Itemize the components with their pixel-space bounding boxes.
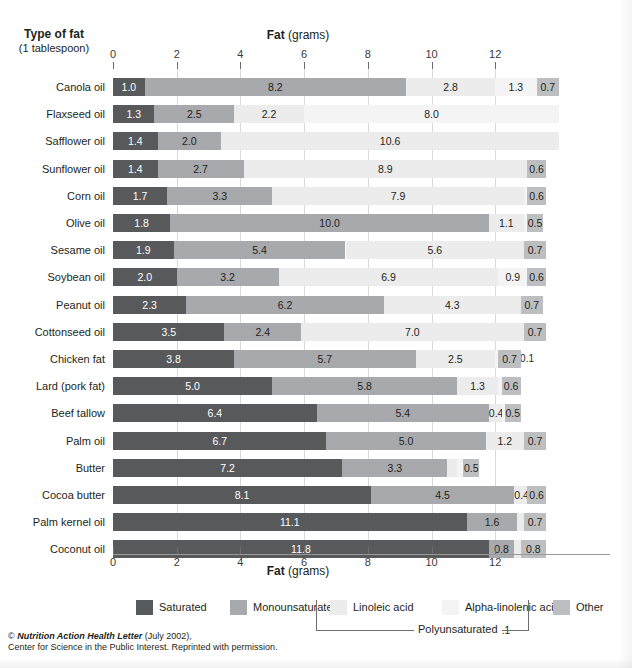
x-tick-mark-bottom bbox=[304, 547, 305, 554]
bar-value-label: 2.7 bbox=[158, 160, 244, 178]
bar-row: 3.85.72.50.70.1 bbox=[113, 350, 574, 368]
bar-value-label: 5.0 bbox=[326, 432, 485, 450]
bar-segment-other: 0.7 bbox=[521, 296, 543, 314]
x-tick-label-top: 4 bbox=[225, 48, 255, 60]
row-label: Chicken fat bbox=[0, 350, 105, 368]
bar-row: 8.14.50.40.6 bbox=[113, 486, 574, 504]
bar-segment-linoleic: 2.2 bbox=[234, 105, 304, 123]
bar-value-label: 6.4 bbox=[113, 404, 317, 422]
bar-value-label: 5.8 bbox=[272, 377, 457, 395]
x-axis-title-bottom-bold: Fat bbox=[267, 564, 285, 578]
bar-row: 2.36.24.30.7 bbox=[113, 296, 574, 314]
publication-name: Nutrition Action Health Letter bbox=[17, 631, 142, 641]
x-tick-label-bottom: 4 bbox=[225, 556, 255, 568]
copyright-symbol: © bbox=[8, 631, 17, 641]
row-label: Lard (pork fat) bbox=[0, 377, 105, 395]
bar-segment-saturated: 3.5 bbox=[113, 323, 224, 341]
bar-value-label: 1.3 bbox=[457, 377, 498, 395]
x-tick-mark-top bbox=[432, 62, 433, 69]
source-credit-line1: © Nutrition Action Health Letter (July 2… bbox=[8, 631, 278, 642]
row-label: Cottonseed oil bbox=[0, 323, 105, 341]
bar-value-label: 0.5 bbox=[463, 459, 479, 477]
bar-segment-saturated: 6.7 bbox=[113, 432, 326, 450]
plot-area: 1.08.22.81.30.71.32.52.28.01.42.010.61.4… bbox=[113, 62, 574, 554]
bar-segment-monounsaturated: 10.0 bbox=[170, 214, 489, 232]
bar-row: 1.32.52.28.0 bbox=[113, 105, 574, 123]
publication-date: (July 2002), bbox=[142, 631, 192, 641]
bar-value-label: 5.4 bbox=[174, 241, 346, 259]
bar-segment-linoleic: 0.4 bbox=[514, 486, 527, 504]
bar-value-label: 2.5 bbox=[154, 105, 234, 123]
bar-value-label: 2.3 bbox=[113, 296, 186, 314]
bar-segment-alpha-linolenic: 8.0 bbox=[304, 105, 559, 123]
bar-value-label: 4.3 bbox=[384, 296, 521, 314]
bar-segment-monounsaturated: 3.3 bbox=[342, 459, 447, 477]
x-tick-mark-top bbox=[113, 62, 114, 69]
bar-value-label: 0.7 bbox=[524, 241, 546, 259]
bar-value-label: 7.2 bbox=[113, 459, 342, 477]
bar-value-label: 1.8 bbox=[113, 214, 170, 232]
x-axis-title-top-bold: Fat bbox=[267, 28, 285, 42]
page-edge-shadow bbox=[618, 0, 632, 668]
bar-row: 1.08.22.81.30.7 bbox=[113, 78, 574, 96]
bar-segment-linoleic: 5.6 bbox=[346, 241, 524, 259]
bar-segment-linoleic: 0.4 bbox=[489, 404, 502, 422]
bar-row: 1.73.37.90.60.1 bbox=[113, 187, 574, 205]
bar-segment-saturated: 1.4 bbox=[113, 132, 158, 150]
page-bottom-shadow bbox=[0, 658, 632, 668]
bar-segment-monounsaturated: 5.4 bbox=[174, 241, 346, 259]
bar-segment-saturated: 11.1 bbox=[113, 513, 467, 531]
row-label: Canola oil bbox=[0, 78, 105, 96]
x-tick-mark-bottom bbox=[368, 547, 369, 554]
bar-value-label: 8.9 bbox=[244, 160, 527, 178]
bar-segment-other: 0.6 bbox=[502, 377, 521, 395]
bar-value-label: 0.7 bbox=[537, 78, 559, 96]
x-tick-label-top: 2 bbox=[162, 48, 192, 60]
bar-segment-other: 0.7 bbox=[537, 78, 559, 96]
bar-segment-linoleic: 1.3 bbox=[457, 377, 498, 395]
bar-row: 6.75.01.20.7 bbox=[113, 432, 574, 450]
row-label: Palm oil bbox=[0, 432, 105, 450]
bar-value-label: 0.4 bbox=[489, 404, 502, 422]
bar-segment-other: 0.8 bbox=[521, 540, 546, 558]
row-label: Coconut oil bbox=[0, 540, 105, 558]
legend-swatch bbox=[230, 600, 247, 615]
bar-value-label: 1.3 bbox=[113, 105, 154, 123]
bar-segment-other: 0.7 bbox=[498, 350, 520, 368]
bar-value-label: 8.1 bbox=[113, 486, 371, 504]
row-label: Corn oil bbox=[0, 187, 105, 205]
bar-value-label: 2.8 bbox=[406, 78, 495, 96]
bar-value-label: 5.0 bbox=[113, 377, 272, 395]
bar-value-label: 1.7 bbox=[113, 187, 167, 205]
x-tick-label-bottom: 12 bbox=[480, 556, 510, 568]
bar-segment-other: 0.5 bbox=[505, 404, 521, 422]
bar-segment-saturated: 8.1 bbox=[113, 486, 371, 504]
bar-value-label: 1.2 bbox=[486, 432, 524, 450]
row-label: Peanut oil bbox=[0, 296, 105, 314]
x-tick-mark-top bbox=[240, 62, 241, 69]
bar-segment-linoleic: 2.8 bbox=[406, 78, 495, 96]
bar-value-label: 0.6 bbox=[527, 486, 546, 504]
x-tick-mark-top bbox=[304, 62, 305, 69]
bar-row: 1.42.78.90.6 bbox=[113, 160, 574, 178]
legend-swatch bbox=[553, 600, 570, 615]
bar-segment-other: 0.7 bbox=[524, 513, 546, 531]
bar-value-label: 6.7 bbox=[113, 432, 326, 450]
polyunsaturated-bracket-label: Polyunsaturated bbox=[414, 623, 502, 635]
x-tick-mark-top bbox=[495, 62, 496, 69]
x-tick-mark-bottom bbox=[113, 547, 114, 554]
bar-value-label: 2.5 bbox=[416, 350, 496, 368]
x-tick-label-top: 8 bbox=[353, 48, 383, 60]
x-tick-mark-top bbox=[177, 62, 178, 69]
bar-segment-saturated: 1.9 bbox=[113, 241, 174, 259]
bar-segment-other: 0.5 bbox=[527, 214, 543, 232]
row-label: Butter bbox=[0, 459, 105, 477]
row-label: Palm kernel oil bbox=[0, 513, 105, 531]
bar-segment-other: 0.6 bbox=[527, 268, 546, 286]
bar-value-label: 0.8 bbox=[521, 540, 546, 558]
x-tick-mark-bottom bbox=[240, 547, 241, 554]
bar-segment-saturated: 7.2 bbox=[113, 459, 342, 477]
x-tick-label-top: 6 bbox=[289, 48, 319, 60]
bar-segment-monounsaturated: 3.3 bbox=[167, 187, 272, 205]
bar-value-label: 0.7 bbox=[524, 432, 546, 450]
